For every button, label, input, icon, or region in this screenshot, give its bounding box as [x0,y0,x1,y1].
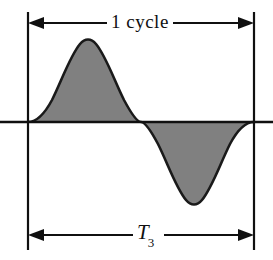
top-left-arrowhead [28,17,44,29]
period-dimension-label: T3 [133,222,159,246]
sine-wave-figure: 1 cycle T3 [0,0,273,260]
cycle-dimension-label: 1 cycle [107,12,173,31]
bottom-left-arrowhead [28,229,44,241]
bottom-right-arrowhead [238,229,254,241]
top-right-arrowhead [238,17,254,29]
period-symbol: T [137,220,149,244]
period-subscript: 3 [148,235,155,250]
